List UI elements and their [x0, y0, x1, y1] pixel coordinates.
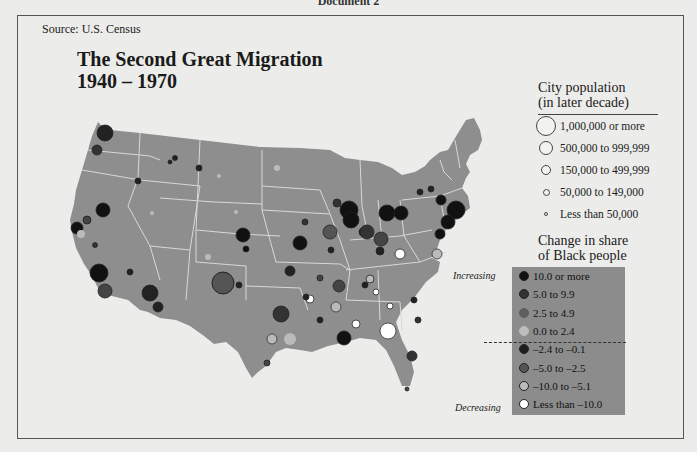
population-legend-item: 150,000 to 499,999: [538, 159, 658, 181]
change-legend-label: 2.5 to 4.9: [533, 307, 575, 319]
change-legend-label: 10.0 or more: [533, 270, 590, 282]
population-legend-label: 500,000 to 999,999: [560, 142, 649, 154]
population-legend-label: 50,000 to 149,000: [560, 186, 644, 198]
population-legend-item: Less than 50,000: [538, 203, 658, 225]
dot-icon: [519, 326, 529, 336]
change-legend-item: –5.0 to –2.5: [512, 358, 625, 376]
population-legend-item: 1,000,000 or more: [538, 115, 658, 137]
population-legend-title-line2: (in later decade): [538, 95, 658, 110]
change-legend-label: –5.0 to –2.5: [533, 362, 586, 374]
change-legend-title-line2: of Black people: [538, 248, 628, 263]
change-legend-label: 5.0 to 9.9: [533, 288, 575, 300]
dot-icon: [519, 344, 529, 354]
change-legend-item: 5.0 to 9.9: [512, 285, 625, 303]
decreasing-label: Decreasing: [455, 402, 501, 413]
population-legend-item: 500,000 to 999,999: [538, 137, 658, 159]
dot-icon: [519, 289, 529, 299]
population-legend-title: City population (in later decade): [538, 80, 658, 115]
change-legend-label: –10.0 to –5.1: [533, 380, 591, 392]
circle-xl-icon: [536, 116, 556, 136]
population-legend-item: 50,000 to 149,000: [538, 181, 658, 203]
circle-sm-icon: [543, 189, 550, 196]
change-legend-box: 10.0 or more 5.0 to 9.9 2.5 to 4.9 0.0 t…: [512, 267, 625, 415]
population-legend-label: 1,000,000 or more: [560, 120, 645, 132]
change-legend-item: 2.5 to 4.9: [512, 304, 625, 322]
dot-icon: [519, 308, 529, 318]
population-legend-title-line1: City population: [538, 80, 658, 95]
circle-md-icon: [541, 165, 551, 175]
circle-lg-icon: [539, 141, 553, 155]
dot-icon: [519, 399, 529, 409]
change-legend-label: 0.0 to 2.4: [533, 325, 575, 337]
population-legend: City population (in later decade) 1,000,…: [538, 80, 658, 225]
change-legend-item: Less than –10.0: [512, 395, 625, 413]
population-legend-label: Less than 50,000: [560, 208, 638, 220]
change-legend-label: Less than –10.0: [533, 398, 602, 410]
increasing-label: Increasing: [453, 270, 495, 281]
population-legend-label: 150,000 to 499,999: [560, 164, 649, 176]
dot-icon: [519, 271, 529, 281]
change-legend-item: 0.0 to 2.4: [512, 322, 625, 340]
change-legend-label: –2.4 to –0.1: [533, 343, 586, 355]
zero-divider-line: [484, 342, 626, 343]
change-legend-title-line1: Change in share: [538, 233, 628, 248]
change-legend-item: 10.0 or more: [512, 267, 625, 285]
change-legend-item: –10.0 to –5.1: [512, 377, 625, 395]
change-legend-title: Change in share of Black people: [538, 233, 628, 263]
circle-xs-icon: [544, 212, 548, 216]
us-land: [70, 118, 482, 386]
dot-icon: [519, 381, 529, 391]
dot-icon: [519, 363, 529, 373]
